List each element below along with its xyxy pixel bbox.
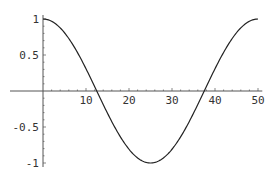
y-tick-label: -0.5: [13, 121, 40, 134]
y-tick-label: -1: [26, 157, 39, 170]
x-tick-label: 20: [122, 94, 135, 107]
x-tick-label: 10: [79, 94, 92, 107]
x-tick-label: 40: [208, 94, 221, 107]
y-tick-label: 0.5: [19, 49, 39, 62]
line-chart: 102030405010.5-0.5-1: [0, 0, 279, 180]
x-tick-label: 50: [251, 94, 264, 107]
y-tick-label: 1: [32, 13, 39, 26]
x-tick-label: 30: [165, 94, 178, 107]
axes: [10, 15, 262, 167]
